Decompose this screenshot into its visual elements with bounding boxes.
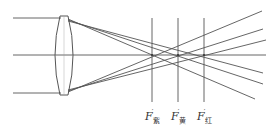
focal-point-yellow bbox=[177, 54, 179, 56]
focal-point-violet bbox=[151, 54, 153, 56]
focal-point-red bbox=[203, 54, 205, 56]
label-focus-yellow: F′黄 bbox=[171, 108, 186, 125]
ray-bottom-violet bbox=[68, 11, 262, 92]
ray-bottom-yellow bbox=[68, 29, 263, 91]
label-focus-red: F′红 bbox=[197, 108, 212, 125]
ray-top-yellow bbox=[68, 20, 263, 84]
label-focus-violet: F′紫 bbox=[145, 108, 160, 125]
optics-diagram bbox=[0, 0, 279, 131]
ray-top-violet bbox=[68, 19, 255, 99]
